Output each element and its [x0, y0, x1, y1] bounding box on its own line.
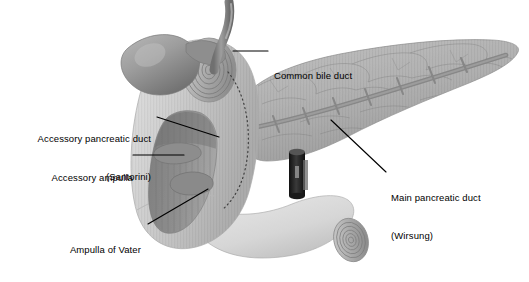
label-accessory-ampulla: Accessory ampulla: [30, 147, 133, 210]
label-line-2: (Wirsung): [391, 230, 481, 243]
label-line-1: Ampulla of Vater: [49, 244, 141, 257]
label-line-1: Accessory ampulla: [30, 172, 133, 185]
label-line-1: Main pancreatic duct: [391, 192, 481, 205]
label-main-pancreatic-duct: Main pancreatic duct (Wirsung): [391, 167, 481, 267]
anatomy-figure: Accessory pancreatic duct (Santorini) Ac…: [0, 0, 529, 282]
label-ampulla-of-vater: Ampulla of Vater: [49, 219, 141, 282]
endoscopic-stent: [289, 149, 308, 199]
label-line-1: Accessory pancreatic duct: [11, 133, 151, 146]
label-common-bile-duct: Common bile duct: [274, 45, 352, 108]
ampulla-of-vater-papilla: [170, 172, 213, 195]
label-line-1: Common bile duct: [274, 70, 352, 83]
